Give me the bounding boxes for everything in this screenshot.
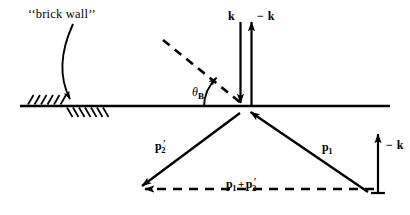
theta-subscript: B	[198, 91, 204, 101]
p1-subscript: 1	[328, 146, 332, 156]
physics-diagram: ‘‘brick wall’’ θB k − k − k p1 p2′ p1+p2…	[0, 0, 410, 215]
momentum-p1-arrow	[251, 112, 369, 192]
sum-plus-sign: +	[236, 178, 245, 190]
p2prime-prime-mark: ′	[163, 138, 166, 149]
momentum-sum-label: p1+p2′	[226, 177, 255, 192]
minus-k-vector-label-right: − k	[386, 139, 404, 151]
diagram-canvas	[0, 0, 410, 215]
momentum-p2prime-label: p2′	[155, 139, 165, 154]
k-vector-label: k	[228, 10, 235, 22]
momentum-p1-label: p1	[322, 141, 332, 155]
wall-hatching-upper	[28, 95, 66, 105]
brick-wall-label: ‘‘brick wall’’	[28, 8, 96, 21]
brewster-angle-label: θB	[192, 86, 204, 101]
minus-k-vector-label-top: − k	[257, 10, 275, 22]
wall-hatching-lower	[67, 108, 109, 118]
wall-label-leader-line	[62, 24, 73, 99]
